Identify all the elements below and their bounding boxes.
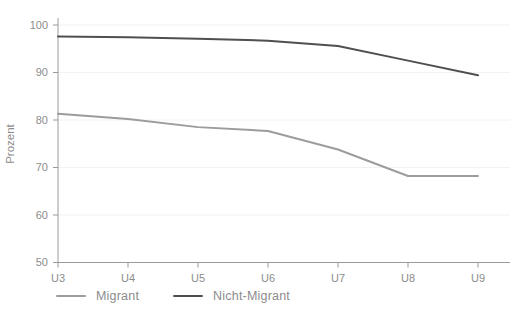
y-tick-label: 60 xyxy=(36,209,48,221)
y-tick-label: 100 xyxy=(30,19,48,31)
legend: Migrant Nicht-Migrant xyxy=(56,289,290,303)
y-tick-label: 50 xyxy=(36,256,48,268)
y-axis-title: Prozent xyxy=(4,123,16,163)
legend-item-nicht-migrant: Nicht-Migrant xyxy=(173,289,290,303)
y-tick-label: 90 xyxy=(36,66,48,78)
y-tick-label: 70 xyxy=(36,161,48,173)
legend-label-migrant: Migrant xyxy=(96,289,139,303)
y-tick-label: 80 xyxy=(36,114,48,126)
legend-label-nicht-migrant: Nicht-Migrant xyxy=(213,289,290,303)
plot-area: 5060708090100U3U4U5U6U7U8U9Prozent xyxy=(0,0,516,321)
x-tick-label: U7 xyxy=(331,272,345,284)
legend-item-migrant: Migrant xyxy=(56,289,139,303)
x-tick-label: U6 xyxy=(261,272,275,284)
x-tick-label: U3 xyxy=(51,272,65,284)
x-tick-label: U9 xyxy=(471,272,485,284)
migrant-line-swatch xyxy=(56,295,86,298)
series-line-migrant xyxy=(58,114,478,176)
series-line-nicht-migrant xyxy=(58,36,478,75)
x-tick-label: U5 xyxy=(191,272,205,284)
nicht-migrant-line-swatch xyxy=(173,295,203,298)
x-tick-label: U4 xyxy=(121,272,135,284)
line-chart: 5060708090100U3U4U5U6U7U8U9Prozent Migra… xyxy=(0,0,516,321)
x-tick-label: U8 xyxy=(401,272,415,284)
